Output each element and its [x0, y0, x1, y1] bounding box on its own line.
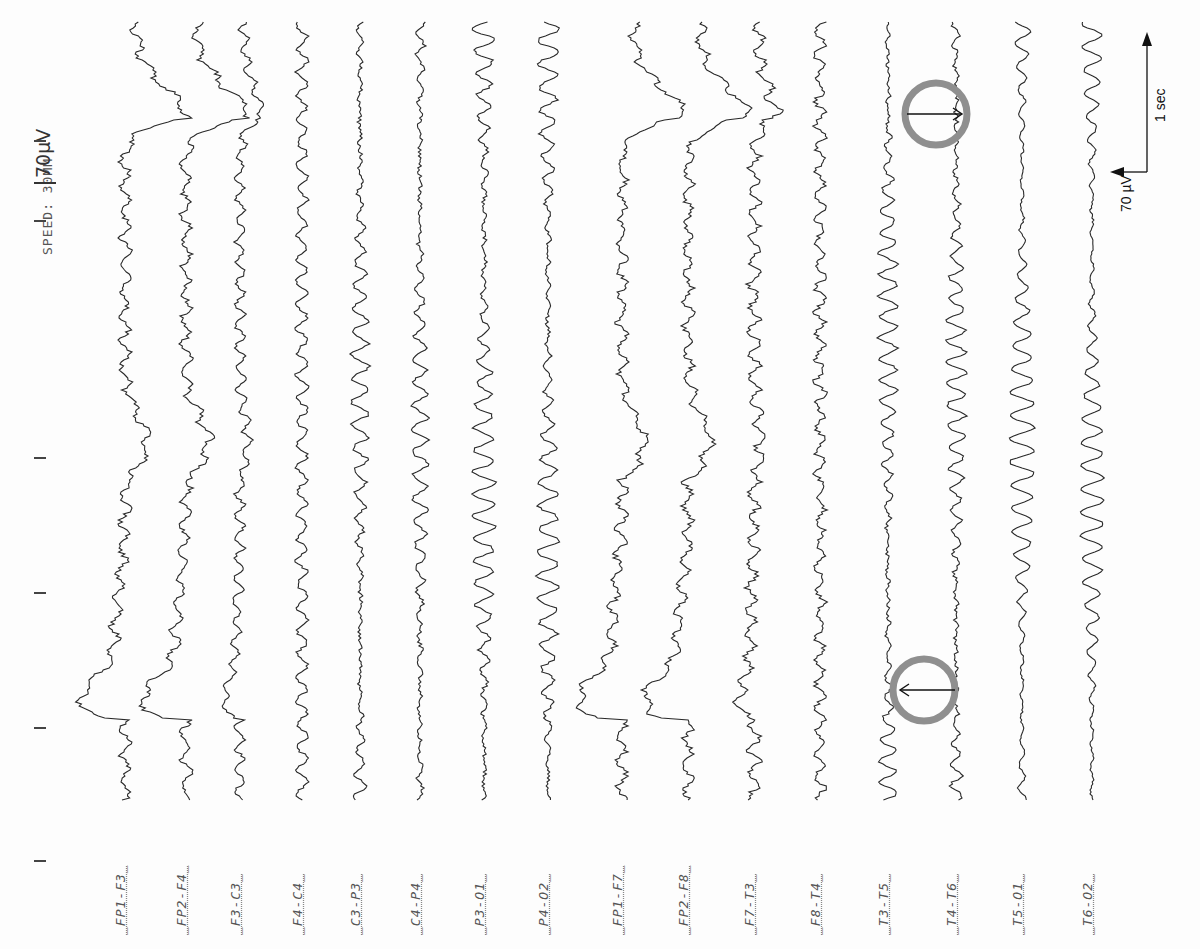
eeg-trace-fp2-f4: [139, 22, 249, 800]
channel-label-t6-o2: _T6-O2_: [1080, 873, 1095, 935]
scale-time-label: 1 sec: [1152, 89, 1168, 122]
eeg-trace-f8-t4: [813, 22, 828, 800]
eeg-trace-fp1-f3: [76, 22, 192, 800]
channel-label-t5-o1: _T5-O1_: [1010, 873, 1025, 935]
gain-bar: [34, 182, 56, 184]
eeg-trace-fp1-f7: [576, 22, 685, 800]
time-tick-4: [34, 592, 46, 594]
eeg-trace-f7-t3: [733, 22, 784, 800]
eeg-figure: SPEED: 30MM 70µV 1 sec 70 µV _FP1-F3__FP…: [0, 0, 1200, 949]
arrow-up-icon: [1142, 32, 1152, 46]
eeg-trace-f4-c4: [295, 22, 309, 800]
scale-amplitude-label: 70 µV: [1118, 175, 1134, 212]
channel-label-f4-c4: _F4-C4_: [290, 873, 305, 935]
gain-label: 70µV: [32, 129, 54, 178]
channel-label-p4-o2: _P4-O2_: [536, 873, 551, 935]
channel-label-fp2-f8: _FP2-F8_: [676, 864, 691, 935]
eeg-trace-p3-o1: [472, 22, 497, 800]
channel-label-f7-t3: _F7-T3_: [742, 873, 757, 935]
channel-label-p3-o1: _P3-O1_: [472, 873, 487, 935]
channel-label-fp1-f3: _FP1-F3_: [113, 864, 128, 935]
eeg-trace-t5-o1: [1009, 22, 1035, 800]
channel-label-c4-p4: _C4-P4_: [408, 873, 423, 935]
time-tick-6: [34, 860, 46, 862]
channel-label-c3-p3: _C3-P3_: [348, 873, 363, 935]
eeg-trace-fp2-f8: [641, 22, 752, 800]
time-tick-2: [34, 220, 46, 222]
eeg-trace-p4-o2: [536, 22, 560, 800]
eeg-traces: [0, 0, 1200, 949]
time-tick-1: [34, 140, 46, 142]
channel-label-fp2-f4: _FP2-F4_: [174, 864, 189, 935]
time-tick-5: [34, 727, 46, 729]
eeg-trace-f3-c3: [222, 22, 263, 800]
channel-label-f3-c3: _F3-C3_: [228, 873, 243, 935]
time-tick-3: [34, 457, 46, 459]
channel-label-fp1-f7: _FP1-F7_: [610, 864, 625, 935]
channel-label-f8-t4: _F8-T4_: [808, 873, 823, 935]
channel-label-t3-t5: _T3-T5_: [876, 873, 891, 935]
eeg-trace-t6-o2: [1080, 22, 1104, 800]
eeg-trace-c4-p4: [411, 22, 429, 800]
eeg-trace-c3-p3: [350, 22, 371, 800]
channel-label-t4-t6: _T4-T6_: [944, 873, 959, 935]
